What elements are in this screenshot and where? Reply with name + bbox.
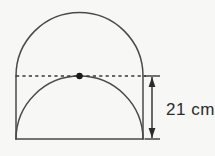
dimension-label: 21 cm bbox=[166, 100, 215, 119]
semicircle-arc bbox=[16, 13, 143, 76]
figure-canvas: 21 cm bbox=[0, 0, 215, 156]
dimension-arrow-up-icon bbox=[149, 77, 156, 87]
left-inner-arc bbox=[16, 76, 80, 139]
right-inner-arc bbox=[80, 76, 144, 139]
center-point-dot bbox=[76, 73, 82, 79]
geometry-figure: 21 cm bbox=[0, 0, 215, 156]
dimension-arrow-down-icon bbox=[149, 128, 156, 138]
